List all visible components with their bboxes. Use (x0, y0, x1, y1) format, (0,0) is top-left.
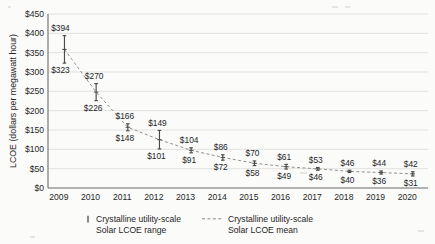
x-tick-label: 2014 (208, 192, 227, 202)
x-tick-label: 2013 (176, 192, 195, 202)
speck (300, 172, 307, 174)
y-tick-label: $100 (25, 144, 44, 154)
y-tick-label: $150 (25, 125, 44, 135)
range-high-label: $44 (372, 158, 386, 168)
speck (345, 6, 350, 8)
y-tick-label: $350 (25, 48, 44, 58)
speck (332, 6, 338, 8)
legend-item-1-label-line2: Solar LCOE mean (228, 225, 298, 235)
range-high-label: $394 (51, 23, 70, 33)
range-high-label: $70 (245, 148, 259, 158)
y-axis-title: LCOE (dollars per megawatt hour) (8, 34, 18, 168)
x-tick-label: 2019 (366, 192, 385, 202)
range-high-label: $270 (85, 71, 104, 81)
range-high-label: $42 (404, 159, 418, 169)
range-high-label: $61 (277, 152, 291, 162)
paper-specks (8, 6, 424, 238)
range-high-label: $53 (309, 155, 323, 165)
x-tick-label: 2010 (81, 192, 100, 202)
x-tick-label: 2015 (239, 192, 258, 202)
y-tick-label: $250 (25, 86, 44, 96)
range-low-label: $226 (84, 103, 103, 113)
range-high-label: $86 (214, 142, 228, 152)
y-gridlines (48, 14, 428, 169)
y-tick-label: $450 (25, 9, 44, 19)
lcoe-chart: $0$50$100$150$200$250$300$350$400$450LCO… (0, 0, 435, 244)
x-axis-ticks: 2009201020112012201320142015201620172018… (49, 192, 417, 202)
range-high-label: $149 (148, 118, 167, 128)
y-tick-label: $200 (25, 106, 44, 116)
legend-item-0-label-line2: Solar LCOE range (96, 225, 166, 235)
y-axis-ticks: $0$50$100$150$200$250$300$350$400$450 (25, 9, 44, 193)
x-tick-label: 2011 (113, 192, 132, 202)
range-high-label: $46 (340, 158, 354, 168)
range-bars (63, 36, 415, 176)
x-tick-label: 2017 (303, 192, 322, 202)
range-high-label: $166 (115, 111, 134, 121)
x-tick-label: 2016 (271, 192, 290, 202)
y-tick-label: $300 (25, 67, 44, 77)
legend-item-0-label-line1: Crystalline utility-scale (96, 214, 181, 224)
legend-item-1-label-line1: Crystalline utility-scale (228, 214, 313, 224)
speck (8, 6, 11, 8)
speck (418, 230, 424, 232)
range-low-label: $101 (147, 151, 166, 161)
chart-legend: Crystalline utility-scaleSolar LCOE rang… (88, 214, 313, 235)
range-low-label: $72 (214, 162, 228, 172)
chart-svg: $0$50$100$150$200$250$300$350$400$450LCO… (0, 0, 435, 244)
range-low-label: $91 (182, 155, 196, 165)
axes (48, 14, 428, 188)
range-low-label: $31 (404, 178, 418, 188)
x-tick-label: 2009 (49, 192, 68, 202)
range-low-label: $58 (245, 168, 259, 178)
range-high-label: $104 (180, 135, 199, 145)
range-low-label: $36 (372, 176, 386, 186)
y-tick-label: $400 (25, 28, 44, 38)
range-low-label: $46 (309, 172, 323, 182)
y-tick-label: $0 (34, 183, 44, 193)
x-tick-label: 2012 (144, 192, 163, 202)
speck (30, 236, 35, 238)
x-tick-label: 2018 (334, 192, 353, 202)
y-tick-label: $50 (30, 164, 45, 174)
range-low-label: $148 (115, 133, 134, 143)
data-labels: $394$323$270$226$166$148$149$101$104$91$… (51, 23, 418, 188)
range-low-label: $40 (340, 175, 354, 185)
range-low-label: $49 (277, 171, 291, 181)
x-tick-label: 2020 (398, 192, 417, 202)
range-low-label: $323 (51, 65, 70, 75)
